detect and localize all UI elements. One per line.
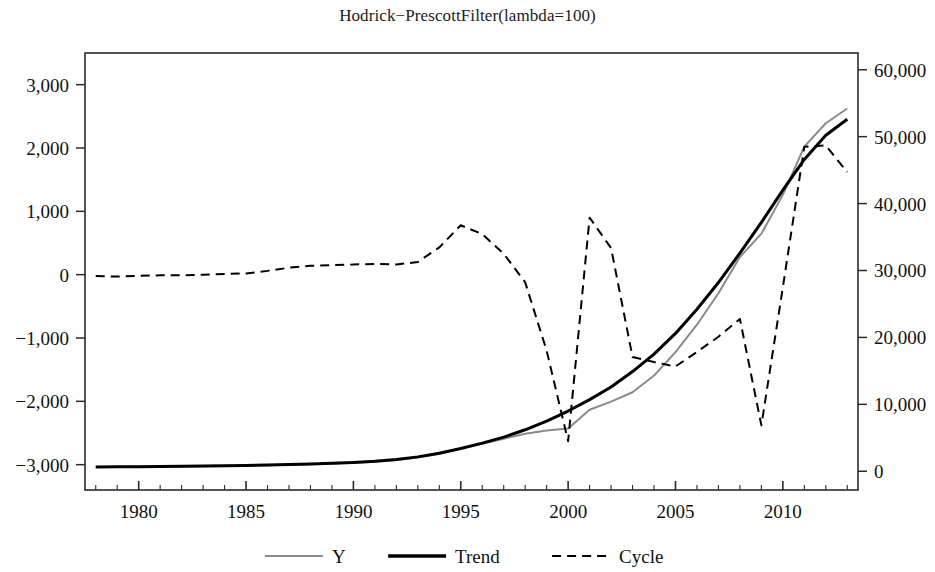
x-axis-tick-label: 1995 — [442, 501, 480, 522]
left-axis-tick-label: 2,000 — [26, 138, 69, 159]
legend-label-cycle: Cycle — [619, 546, 663, 567]
series-layer — [96, 109, 848, 468]
left-axis-tick-label: 0 — [60, 265, 70, 286]
plot-border — [85, 53, 858, 490]
right-axis-tick-label: 10,000 — [874, 394, 926, 415]
x-axis-tick-label: 2005 — [656, 501, 694, 522]
x-axis-tick-label: 1990 — [334, 501, 372, 522]
left-axis-tick-label: 3,000 — [26, 75, 69, 96]
series-line-y — [96, 109, 848, 468]
plot-frame — [85, 53, 858, 490]
right-axis-tick-label: 40,000 — [874, 194, 926, 215]
axis-labels-layer: 19801985199019952000200520103,0002,0001,… — [16, 60, 927, 522]
chart-legend: YTrendCycle — [265, 546, 664, 567]
right-axis-tick-label: 30,000 — [874, 260, 926, 281]
left-axis-tick-label: 1,000 — [26, 201, 69, 222]
series-line-cycle — [96, 145, 848, 441]
left-axis-tick-label: −3,000 — [16, 455, 69, 476]
right-axis-tick-label: 60,000 — [874, 60, 926, 81]
x-axis-tick-label: 2010 — [764, 501, 802, 522]
left-axis-tick-label: −1,000 — [16, 328, 69, 349]
legend-label-y: Y — [332, 546, 346, 567]
x-axis-tick-label: 2000 — [549, 501, 587, 522]
right-axis-tick-label: 50,000 — [874, 127, 926, 148]
legend-label-trend: Trend — [455, 546, 500, 567]
left-axis-tick-label: −2,000 — [16, 391, 69, 412]
right-axis-tick-label: 0 — [874, 461, 884, 482]
x-axis-tick-label: 1980 — [120, 501, 158, 522]
x-axis-tick-label: 1985 — [227, 501, 265, 522]
series-line-trend — [96, 119, 848, 467]
chart-container: Hodrick−PrescottFilter(lambda=100) 19801… — [0, 0, 935, 572]
hodrick-prescott-filter-chart: 19801985199019952000200520103,0002,0001,… — [0, 0, 935, 572]
axis-ticks-layer — [76, 70, 867, 490]
right-axis-tick-label: 20,000 — [874, 327, 926, 348]
